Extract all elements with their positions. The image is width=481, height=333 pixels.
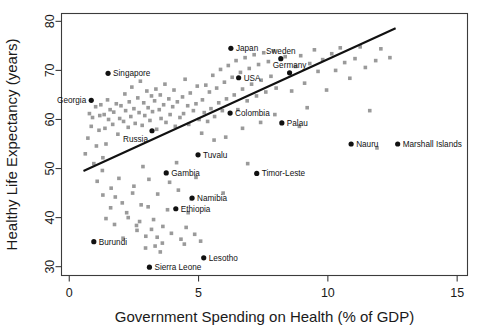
- data-point: [104, 217, 108, 221]
- data-point: [161, 241, 165, 245]
- data-point-label: USA: [244, 74, 261, 83]
- data-point: [143, 114, 147, 118]
- data-point: [183, 77, 187, 81]
- data-point: [181, 95, 185, 99]
- data-point: [274, 86, 278, 90]
- data-point: [259, 121, 263, 125]
- data-point: [148, 119, 152, 123]
- data-point: [267, 60, 271, 64]
- data-point: [136, 96, 140, 100]
- data-point-label: Russia: [123, 135, 148, 144]
- data-point-highlighted: [189, 195, 194, 200]
- data-point: [348, 76, 352, 80]
- data-point: [111, 123, 115, 127]
- data-point: [215, 86, 219, 90]
- data-point-highlighted: [279, 120, 284, 125]
- data-point: [151, 110, 155, 114]
- data-point: [135, 229, 139, 233]
- data-point: [269, 75, 273, 79]
- data-point: [145, 89, 149, 93]
- x-tick-label: 10: [321, 286, 335, 300]
- data-point-label: Palau: [287, 119, 308, 128]
- data-point-label: Timor-Leste: [262, 169, 306, 178]
- data-point: [209, 107, 213, 111]
- data-point: [199, 239, 203, 243]
- data-point-highlighted: [395, 141, 400, 146]
- data-point: [157, 108, 161, 112]
- data-point: [330, 52, 334, 56]
- data-point: [109, 206, 113, 210]
- x-axis-tick-labels: 051015: [66, 286, 464, 300]
- y-axis-title: Healthy Life Expectancy (years): [3, 39, 20, 251]
- data-point: [221, 109, 225, 113]
- data-point-label: Gambia: [171, 169, 200, 178]
- data-point-label: Marshall Islands: [403, 140, 462, 149]
- data-point-highlighted: [201, 255, 206, 260]
- data-point-highlighted: [287, 70, 292, 75]
- data-point: [94, 105, 98, 109]
- data-point: [113, 223, 117, 227]
- data-point: [334, 69, 338, 73]
- data-point: [252, 53, 256, 57]
- data-point: [239, 71, 243, 75]
- data-point: [170, 232, 174, 236]
- data-point: [159, 117, 163, 121]
- y-axis-tick-labels: 304050607080: [43, 14, 57, 273]
- data-point: [204, 83, 208, 87]
- data-point: [176, 100, 180, 104]
- data-point: [127, 100, 131, 104]
- data-point: [126, 216, 130, 220]
- data-point: [247, 67, 251, 71]
- data-point: [129, 115, 133, 119]
- data-point: [113, 195, 117, 199]
- data-point: [155, 235, 159, 239]
- data-point: [226, 64, 230, 68]
- data-point: [154, 87, 158, 91]
- scatter-plot-figure: 051015 304050607080 SingaporeGeorgiaJapa…: [0, 0, 481, 333]
- data-point-highlighted: [149, 128, 154, 133]
- data-point-highlighted: [147, 265, 152, 270]
- y-tick-label: 60: [43, 112, 57, 126]
- data-point: [325, 88, 329, 92]
- data-point: [146, 205, 150, 209]
- data-point: [144, 234, 148, 238]
- data-point: [167, 97, 171, 101]
- data-point-highlighted: [228, 46, 233, 51]
- data-point: [120, 201, 124, 205]
- data-point: [234, 59, 238, 63]
- data-point: [124, 109, 128, 113]
- data-point-label: Ethiopia: [181, 205, 211, 214]
- data-point: [374, 59, 378, 63]
- data-point-highlighted: [91, 239, 96, 244]
- data-point: [123, 92, 127, 96]
- data-point-label: Lesotho: [209, 254, 239, 263]
- data-point: [184, 226, 188, 230]
- data-point: [107, 118, 111, 122]
- data-point: [188, 91, 192, 95]
- data-point: [213, 115, 217, 119]
- data-point: [104, 142, 108, 146]
- data-point-label: Georgia: [57, 96, 87, 105]
- data-point: [119, 104, 123, 108]
- data-point: [158, 250, 162, 254]
- data-point: [224, 135, 228, 139]
- data-point: [115, 102, 119, 106]
- data-point: [192, 109, 196, 113]
- data-point-highlighted: [236, 75, 241, 80]
- data-point: [156, 192, 160, 196]
- data-point: [131, 191, 135, 195]
- data-point: [178, 116, 182, 120]
- data-point-label: Colombia: [235, 109, 270, 118]
- data-point: [142, 101, 146, 105]
- data-point: [313, 48, 317, 52]
- data-point: [139, 79, 143, 83]
- data-point: [163, 82, 167, 86]
- data-point: [273, 113, 277, 117]
- data-point: [290, 89, 294, 93]
- data-point: [211, 74, 215, 78]
- data-point: [101, 193, 105, 197]
- data-point: [132, 184, 136, 188]
- data-point: [125, 211, 129, 215]
- data-point: [262, 51, 266, 55]
- data-point-highlighted: [105, 71, 110, 76]
